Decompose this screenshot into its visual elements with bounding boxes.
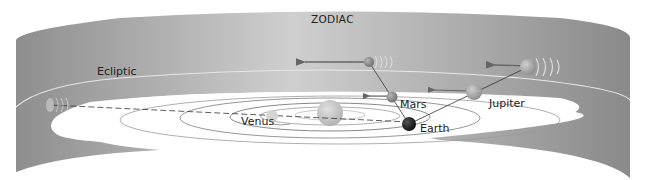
mars-label: Mars [400,99,427,110]
diagram-canvas [0,0,660,180]
ecliptic-label: Ecliptic [97,66,137,77]
jupiter [466,84,482,100]
sun [317,100,343,126]
mars [387,92,398,103]
zodiac-label: ZODIAC [311,14,354,25]
jupiter-label: Jupiter [489,98,525,109]
earth [402,117,416,131]
zodiac-diagram: ZODIAC Ecliptic Venus Mars Earth Jupiter [0,0,660,180]
venus-label: Venus [241,116,274,127]
earth-label: Earth [420,123,450,134]
